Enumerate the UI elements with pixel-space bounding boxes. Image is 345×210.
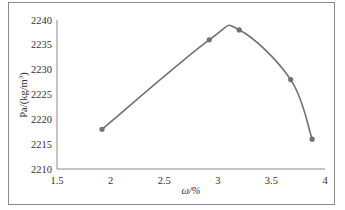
y-tick-label: 2215 xyxy=(31,139,52,150)
x-tick-label: 2 xyxy=(108,175,113,186)
data-point xyxy=(310,137,315,142)
data-line xyxy=(102,25,312,139)
data-point xyxy=(288,77,293,82)
y-tick-label: 2235 xyxy=(31,39,52,50)
y-tick-label: 2220 xyxy=(31,114,52,125)
data-point xyxy=(207,37,212,42)
y-axis-label: Pa/(kg/m3) xyxy=(17,72,30,118)
x-tick-label: 3.5 xyxy=(265,175,278,186)
y-tick-label: 2240 xyxy=(31,15,52,26)
x-tick-label: 1.5 xyxy=(50,175,63,186)
y-tick-label: 2225 xyxy=(31,89,52,100)
y-tick-label: 2210 xyxy=(31,164,52,175)
y-tick-label: 2230 xyxy=(31,64,52,75)
x-tick-label: 3 xyxy=(215,175,220,186)
data-points xyxy=(99,27,314,141)
axes xyxy=(57,20,325,169)
x-axis-label: ω/% xyxy=(181,185,200,196)
y-tick-labels: 2210221522202225223022352240 xyxy=(31,15,52,175)
data-point xyxy=(99,127,104,132)
x-tick-label: 4 xyxy=(322,175,328,186)
x-tick-label: 2.5 xyxy=(158,175,171,186)
data-point xyxy=(237,27,242,32)
line-chart: 1.522.533.54 221022152220222522302235224… xyxy=(0,0,345,210)
